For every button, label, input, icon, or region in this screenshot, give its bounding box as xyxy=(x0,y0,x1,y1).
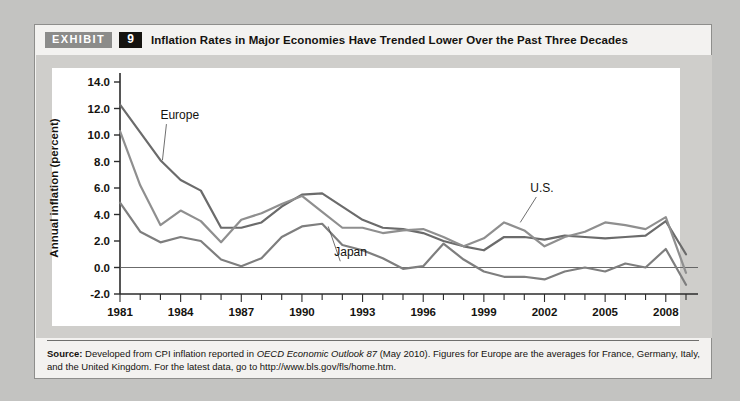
annotation-leader-line xyxy=(520,197,536,222)
x-axis-tick-label: 1981 xyxy=(107,306,133,318)
annotation-label-us: U.S. xyxy=(530,181,553,195)
inflation-line-chart: 14.012.010.08.06.04.02.00.0-2.0Annual in… xyxy=(36,55,712,338)
y-axis-tick-label: 0.0 xyxy=(94,262,110,274)
x-axis-tick-label: 1996 xyxy=(410,306,436,318)
y-axis-title: Annual inflation (percent) xyxy=(48,118,60,257)
x-axis-tick-label: 2008 xyxy=(653,306,679,318)
y-axis-tick-label: 2.0 xyxy=(94,235,110,247)
y-axis-tick-label: -2.0 xyxy=(90,288,110,300)
y-axis-tick-label: 6.0 xyxy=(94,182,110,194)
source-note: Source: Developed from CPI inflation rep… xyxy=(47,347,703,373)
series-line-japan xyxy=(120,203,686,285)
series-line-europe xyxy=(120,105,686,255)
y-axis-tick-label: 12.0 xyxy=(88,103,110,115)
exhibit-tag-badge: EXHIBIT xyxy=(45,32,112,48)
source-publication: OECD Economic Outlook 87 xyxy=(257,348,377,359)
page-background: EXHIBIT 9 Inflation Rates in Major Econo… xyxy=(0,0,740,401)
exhibit-header: EXHIBIT 9 Inflation Rates in Major Econo… xyxy=(35,25,711,55)
source-divider xyxy=(47,340,699,341)
annotation-label-europe: Europe xyxy=(160,108,199,122)
x-axis-tick-label: 1999 xyxy=(471,306,497,318)
x-axis-tick-label: 1993 xyxy=(350,306,376,318)
y-axis-tick-label: 10.0 xyxy=(88,129,110,141)
y-axis-tick-label: 8.0 xyxy=(94,156,110,168)
exhibit-title: Inflation Rates in Major Economies Have … xyxy=(151,34,628,46)
x-axis-tick-label: 1990 xyxy=(289,306,315,318)
x-axis-tick-label: 1984 xyxy=(168,306,194,318)
annotation-label-japan: Japan xyxy=(334,245,367,259)
exhibit-card: EXHIBIT 9 Inflation Rates in Major Econo… xyxy=(34,24,712,379)
y-axis-tick-label: 14.0 xyxy=(88,76,110,88)
x-axis-tick-label: 2005 xyxy=(592,306,618,318)
x-axis-tick-label: 1987 xyxy=(228,306,254,318)
source-text-1: Developed from CPI inflation reported in xyxy=(82,348,256,359)
chart-panel: 14.012.010.08.06.04.02.00.0-2.0Annual in… xyxy=(36,55,712,338)
source-label: Source: xyxy=(47,348,82,359)
x-axis-tick-label: 2002 xyxy=(532,306,558,318)
exhibit-number-badge: 9 xyxy=(119,32,142,48)
series-line-us xyxy=(120,131,686,273)
y-axis-tick-label: 4.0 xyxy=(94,209,110,221)
annotation-leader-line xyxy=(162,124,166,160)
